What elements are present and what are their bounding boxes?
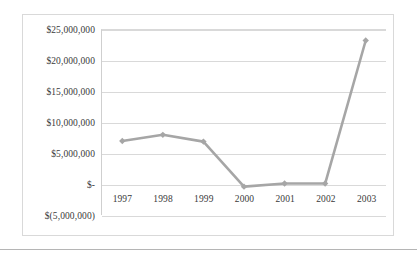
chart-page: $25,000,000$20,000,000$15,000,000$10,000…	[0, 0, 417, 260]
data-point-marker	[160, 132, 166, 138]
series-markers	[119, 37, 369, 190]
series-line	[122, 40, 365, 186]
bottom-band	[0, 250, 417, 260]
data-point-marker	[322, 180, 328, 186]
y-axis-tick-label: $25,000,000	[46, 25, 95, 35]
y-axis-tick-label: $20,000,000	[46, 56, 95, 66]
y-axis-tick-label: $5,000,000	[51, 149, 95, 159]
data-point-marker	[119, 138, 125, 144]
y-axis-tick-label: $15,000,000	[46, 87, 95, 97]
chart-frame: $25,000,000$20,000,000$15,000,000$10,000…	[22, 14, 394, 236]
data-point-marker	[363, 37, 369, 43]
data-series-layer	[102, 30, 386, 215]
plot-area: $25,000,000$20,000,000$15,000,000$10,000…	[101, 29, 386, 215]
gridline	[102, 216, 386, 217]
y-axis-tick-label: $10,000,000	[46, 118, 95, 128]
y-axis-tick-label: $-	[87, 180, 95, 190]
y-axis-tick-label: $(5,000,000)	[45, 211, 95, 221]
data-point-marker	[281, 180, 287, 186]
